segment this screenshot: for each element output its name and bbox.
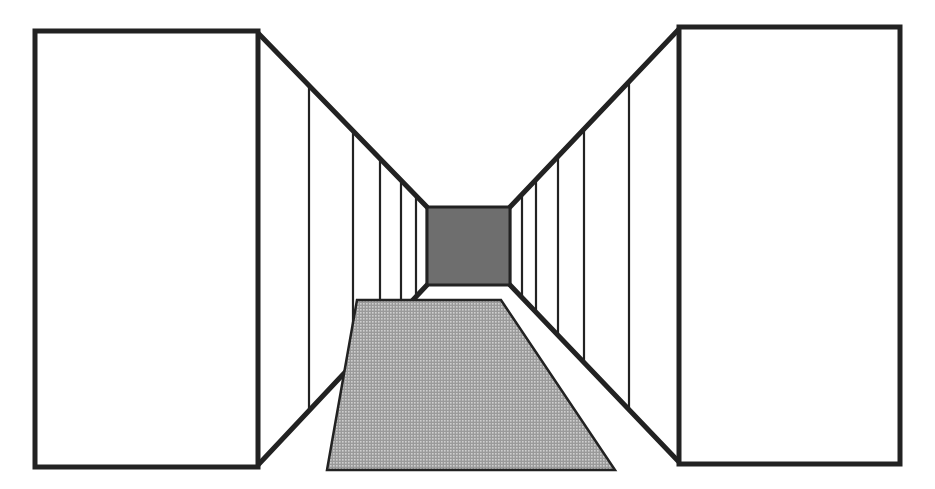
right-box	[679, 27, 900, 464]
back-wall	[427, 207, 510, 285]
floor-carpet	[327, 300, 615, 470]
wall-top-edge	[258, 33, 427, 207]
corridor-drawing	[0, 0, 935, 489]
perspective-corridor-diagram: One-point perspective corridor	[0, 0, 935, 489]
wall-top-edge	[510, 29, 679, 207]
left-box	[35, 31, 258, 467]
